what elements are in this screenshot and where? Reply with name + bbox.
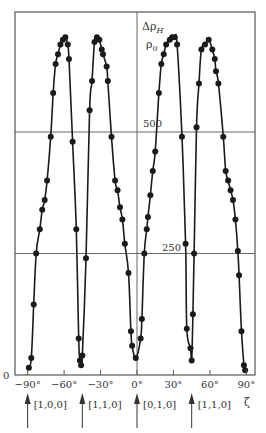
data-point	[163, 42, 169, 48]
data-point	[189, 357, 195, 363]
data-point	[172, 34, 178, 40]
data-point	[147, 192, 153, 198]
x-tick-label: 30°	[165, 379, 183, 390]
crystal-direction-label: [1,0,0]	[34, 399, 67, 410]
data-point	[73, 226, 79, 232]
frame-rect	[15, 12, 255, 375]
y-tick-500: 500	[143, 118, 162, 129]
crystal-direction-label: [0,1,0]	[143, 399, 176, 410]
data-point	[44, 178, 50, 184]
gridlines	[15, 12, 255, 375]
x-tick-label: −30°	[87, 379, 113, 390]
data-point	[190, 311, 196, 317]
direction-annotations: [1,0,0][1,1,0][0,1,0][1,1,0]	[25, 393, 231, 428]
data-point	[100, 51, 106, 57]
data-point	[55, 51, 61, 57]
data-point	[139, 316, 145, 322]
data-point	[33, 251, 39, 257]
data-point	[133, 355, 139, 361]
data-point	[212, 56, 218, 62]
data-point	[220, 134, 226, 140]
data-point	[183, 241, 189, 247]
data-point	[128, 328, 134, 334]
data-point	[83, 255, 89, 261]
y-tick-0: 0	[3, 370, 9, 381]
data-point	[202, 42, 208, 48]
data-point	[156, 90, 162, 96]
data-point	[235, 248, 241, 254]
data-point	[158, 61, 164, 67]
data-point	[150, 168, 156, 174]
x-axis-ticks: −90°−60°−30°0°30°60°90°	[15, 370, 256, 390]
data-point	[122, 241, 128, 247]
zeta-axis-label: ζ	[244, 396, 250, 409]
data-point	[194, 124, 200, 130]
x-tick-label: 90°	[237, 379, 255, 390]
y-label-delta-rho: ΔρH	[142, 20, 164, 35]
data-point	[66, 56, 72, 62]
data-point	[108, 134, 114, 140]
data-point	[187, 345, 193, 351]
data-point	[215, 80, 221, 86]
data-point	[145, 214, 151, 220]
plot-svg: −90°−60°−30°0°30°60°90° [1,0,0][1,1,0][0…	[0, 0, 266, 433]
data-point	[117, 204, 123, 210]
data-point	[78, 362, 84, 368]
data-point	[104, 63, 110, 69]
x-tick-label: 60°	[201, 379, 219, 390]
data-point	[53, 61, 59, 67]
data-point	[196, 80, 202, 86]
data-point	[48, 134, 54, 140]
data-point	[87, 107, 93, 113]
data-point	[76, 336, 82, 342]
data-point	[26, 365, 32, 371]
crystal-direction-label: [1,1,0]	[198, 399, 231, 410]
data-point	[79, 353, 85, 359]
crystal-direction-label: [1,1,0]	[88, 399, 121, 410]
data-point	[152, 148, 158, 154]
y-label-rho0: ρ0	[146, 38, 158, 53]
data-point	[42, 197, 48, 203]
data-point	[238, 328, 244, 334]
data-point	[28, 355, 34, 361]
x-tick-label: 0°	[131, 379, 142, 390]
data-point	[174, 42, 180, 48]
data-point	[89, 78, 95, 84]
arrow-up-icon	[25, 393, 31, 404]
data-point	[96, 37, 102, 43]
data-point	[179, 134, 185, 140]
data-point	[223, 168, 229, 174]
data-point	[236, 272, 242, 278]
data-point	[138, 336, 144, 342]
data-point	[115, 187, 121, 193]
data-point	[31, 302, 37, 308]
data-point	[37, 226, 43, 232]
data-point	[141, 251, 147, 257]
arrow-up-icon	[189, 393, 195, 404]
data-point	[105, 78, 111, 84]
data-point	[62, 34, 68, 40]
chart-container: −90°−60°−30°0°30°60°90° [1,0,0][1,1,0][0…	[0, 0, 266, 433]
data-point	[225, 178, 231, 184]
data-point	[242, 367, 248, 373]
data-point	[230, 197, 236, 203]
data-point	[184, 326, 190, 332]
data-point	[144, 226, 150, 232]
data-point	[129, 343, 135, 349]
arrow-up-icon	[79, 393, 85, 404]
data-point	[39, 207, 45, 213]
arrow-up-icon	[134, 393, 140, 404]
data-point	[119, 216, 125, 222]
data-point	[206, 37, 212, 43]
plot-frame	[15, 12, 255, 375]
data-point	[125, 270, 131, 276]
x-tick-label: −60°	[51, 379, 77, 390]
data-point	[198, 46, 204, 52]
data-point	[161, 51, 167, 57]
data-point	[228, 187, 234, 193]
data-point	[50, 90, 56, 96]
data-point	[213, 68, 219, 74]
data-point	[209, 46, 215, 52]
data-point	[70, 139, 76, 145]
data-point	[191, 251, 197, 257]
